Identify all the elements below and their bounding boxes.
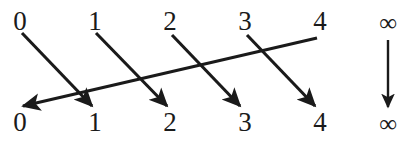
arrow-4-to-0 — [23, 38, 317, 106]
arrow-layer — [0, 0, 415, 144]
top-label-2: 2 — [150, 8, 190, 35]
bottom-label-2: 2 — [150, 109, 190, 136]
top-label-4: 4 — [300, 8, 340, 35]
arrow-0-to-1 — [22, 33, 92, 106]
bottom-label-3: 3 — [225, 109, 265, 136]
top-label-infinity: ∞ — [368, 10, 408, 35]
bottom-label-infinity: ∞ — [368, 111, 408, 136]
top-label-3: 3 — [225, 8, 265, 35]
bottom-label-1: 1 — [75, 109, 115, 136]
bottom-label-4: 4 — [300, 109, 340, 136]
bottom-label-0: 0 — [0, 109, 40, 136]
top-label-0: 0 — [0, 8, 40, 35]
arrow-1-to-2 — [96, 33, 167, 106]
top-label-1: 1 — [75, 8, 115, 35]
mapping-diagram: 0 1 2 3 4 ∞ 0 1 2 3 4 ∞ — [0, 0, 415, 144]
